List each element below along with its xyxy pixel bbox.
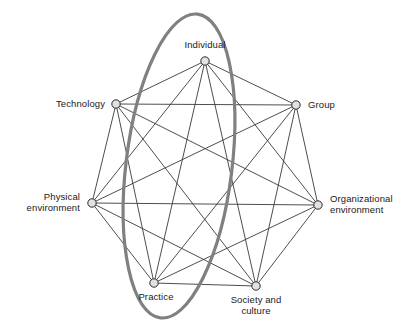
- node-label-society-and-culture: Society and culture: [0, 294, 411, 316]
- edge-technology-organizational-environment: [116, 104, 318, 205]
- edge-group-society-and-culture: [256, 105, 296, 286]
- edge-practice-society-and-culture: [154, 283, 256, 286]
- node-physical-environment[interactable]: [88, 199, 96, 207]
- node-label-group: Group: [308, 99, 335, 110]
- edge-individual-organizational-environment: [205, 61, 318, 205]
- network-diagram: IndividualTechnologyGroupPhysical enviro…: [0, 0, 411, 332]
- edge-individual-group: [205, 61, 296, 105]
- edge-technology-group: [116, 104, 296, 105]
- node-label-physical-environment: Physical environment: [27, 191, 80, 213]
- node-label-technology: Technology: [56, 98, 105, 109]
- node-label-individual: Individual: [0, 39, 410, 50]
- edge-individual-practice: [154, 61, 205, 283]
- nodes-group: [88, 57, 322, 290]
- node-society-and-culture[interactable]: [252, 282, 260, 290]
- node-organizational-environment[interactable]: [314, 201, 322, 209]
- node-technology[interactable]: [112, 100, 120, 108]
- edge-organizational-environment-practice: [154, 205, 318, 283]
- edge-individual-technology: [116, 61, 205, 104]
- node-label-organizational-environment: Organizational environment: [330, 193, 393, 215]
- edge-physical-environment-organizational-environment: [92, 203, 318, 205]
- edge-technology-practice: [116, 104, 154, 283]
- node-individual[interactable]: [201, 57, 209, 65]
- edge-group-organizational-environment: [296, 105, 318, 205]
- edge-group-practice: [154, 105, 296, 283]
- node-practice[interactable]: [150, 279, 158, 287]
- node-group[interactable]: [292, 101, 300, 109]
